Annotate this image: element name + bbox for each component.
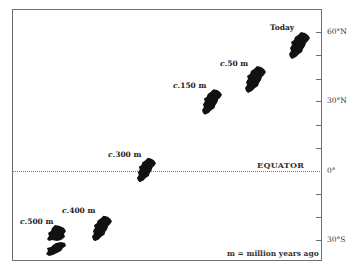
landmass-50m-icon	[245, 66, 266, 93]
landmass-today-icon	[289, 32, 310, 59]
legend-note: m = million years ago	[227, 249, 319, 258]
lat-tick	[316, 55, 322, 56]
label-400m: c.400 m	[62, 207, 95, 215]
lat-tick	[316, 217, 322, 218]
lat-tick	[316, 194, 322, 195]
label-50m: c.50 m	[220, 60, 248, 68]
equator-line	[13, 171, 322, 172]
lat-tick	[316, 79, 322, 80]
landmass-300m-icon	[137, 157, 156, 183]
landmass-500m-icon	[46, 225, 67, 256]
lat-label-30s: 30°S	[327, 236, 345, 244]
label-today: Today	[270, 24, 294, 32]
lat-tick-30s	[316, 240, 322, 241]
lat-label-30n: 30°N	[327, 97, 347, 105]
landmass-400m-icon	[92, 215, 112, 242]
lat-tick	[316, 125, 322, 126]
lat-tick	[316, 148, 322, 149]
lat-tick-60n	[316, 32, 322, 33]
plot-frame	[12, 9, 322, 261]
landmass-150m-icon	[202, 89, 222, 115]
equator-label: EQUATOR	[257, 160, 304, 170]
lat-label-60n: 60°N	[327, 28, 347, 36]
lat-label-0: 0°	[327, 167, 336, 175]
lat-tick-30n	[316, 101, 322, 102]
